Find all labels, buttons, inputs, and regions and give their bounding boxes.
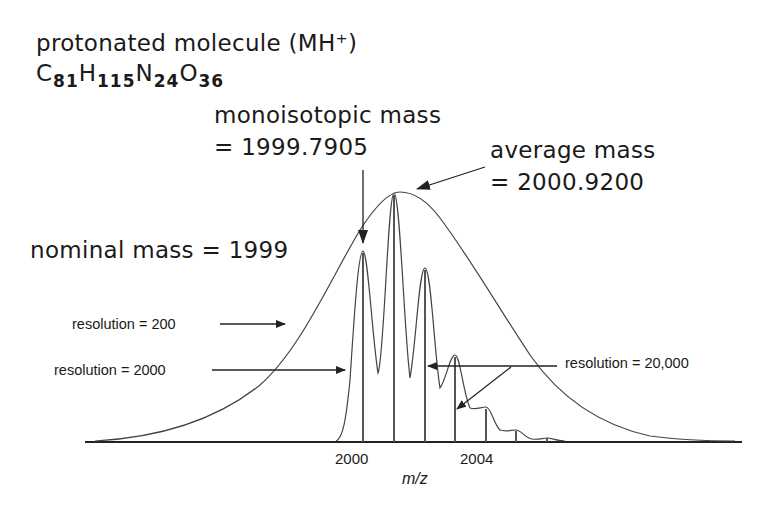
profile-res2000 [336,193,565,441]
resolution-20000-arrow-diagonal [457,367,511,409]
envelope-res200 [95,192,735,441]
stick-peaks-res20000 [363,195,547,442]
average-mass-arrow [417,167,485,189]
spectrum-plot [0,0,772,509]
